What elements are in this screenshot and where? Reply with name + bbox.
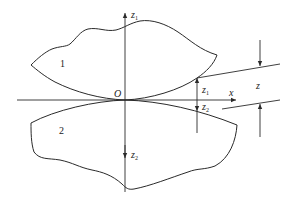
z1-axis-label: z1: [130, 9, 138, 21]
body-2-outline: [31, 100, 237, 189]
z1-dimension-label: z1: [201, 84, 209, 96]
lower-reference-line: [222, 100, 280, 109]
body-1-outline: [31, 21, 217, 100]
contact-diagram: 1 2 O z1 z2 x z z1 z2: [0, 0, 298, 203]
upper-reference-line: [197, 64, 280, 78]
z2-axis-label: z2: [130, 149, 138, 161]
origin-label: O: [114, 88, 121, 99]
body-1-label: 1: [60, 58, 65, 69]
x-axis-label: x: [228, 87, 234, 98]
body-2-label: 2: [59, 125, 64, 136]
z-gap-label: z: [255, 80, 260, 91]
z2-dimension-label: z2: [201, 101, 209, 113]
